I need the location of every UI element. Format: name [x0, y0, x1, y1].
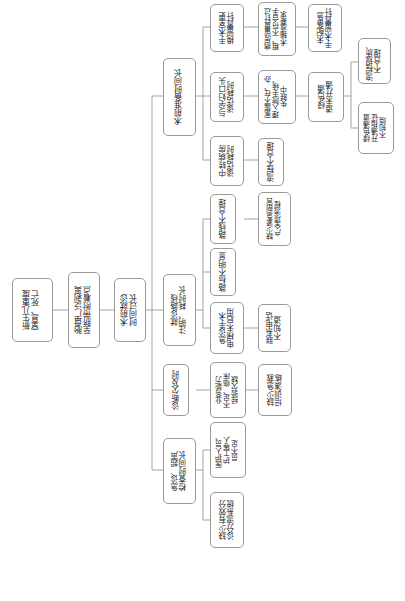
node-root-outcome[interactable]: 新生儿重度 窒息、死亡	[12, 278, 53, 342]
node-placenta-abruption[interactable]: 胎盘广泛剥离 至脐带附着点	[68, 272, 100, 348]
node-label: 路标不明显	[219, 252, 228, 292]
node-label: 业务能力 不足、临床 经验欠缺	[216, 373, 239, 408]
node-label: 绿色通 道未开通	[318, 81, 335, 113]
node-label: 缺少有效分 诊分流系统	[219, 500, 236, 540]
node-process-unreasonable-2[interactable]: 流程不合理	[258, 138, 284, 186]
node-green-channel-not-open[interactable]: 绿色通 道未开通	[308, 72, 344, 122]
node-diagnosis-untimely[interactable]: 诊断欠及时	[163, 364, 189, 416]
node-preop-visit-delay[interactable]: 术前就诊 时间过长	[114, 278, 146, 342]
node-label: 新生儿重度 窒息、死亡	[23, 290, 41, 330]
node-label: 术前准备时间长	[175, 69, 184, 125]
node-label: 联系电话 不知道	[266, 312, 283, 344]
node-route-unreasonable[interactable]: 路线不合理	[210, 194, 236, 244]
connector-lines	[0, 0, 405, 601]
node-no-emergency-csection-process[interactable]: 缺少紧急剖宫 产全项流程	[258, 192, 291, 246]
node-label: 胎盘广泛剥离 至脐带附着点	[75, 286, 93, 334]
node-label: 手术室更 换留置针	[219, 12, 236, 44]
node-label: 术前就诊 时间过长	[121, 294, 139, 326]
node-label: 路线不合理	[219, 199, 228, 239]
node-process-unreasonable-1[interactable]: 流程规质、 不合理	[358, 38, 391, 84]
node-label: 未配备急 手术留置针	[317, 8, 334, 48]
node-ed-ultrasound-time[interactable]: 急诊、超声 检查时间长	[163, 438, 196, 504]
node-label: 家属不在、办 理入院手续、 失联中	[265, 76, 288, 118]
node-label: 急诊手术 电梯未启用	[219, 308, 236, 348]
node-label: 中转病房 谈话耗时	[219, 145, 236, 177]
node-lack-emergency-training[interactable]: 缺少急救 培训演练	[258, 364, 292, 416]
node-label: 急诊、超声 检查时间长	[171, 451, 188, 491]
node-label: 流程规质、 不合理	[366, 41, 383, 81]
node-label: 绿色通道 开通指征 不知晓	[364, 114, 387, 142]
node-label: 医护人员、 护工等人 员不足	[216, 433, 239, 468]
node-label: 诊断欠及时	[172, 370, 181, 410]
node-preop-prep-time[interactable]: 术前准备时间长	[163, 58, 196, 136]
node-signage-unclear[interactable]: 路标不明显	[210, 248, 236, 296]
diagram-canvas: 新生儿重度 窒息、死亡 胎盘广泛剥离 至脐带附着点 术前就诊 时间过长 术前准备…	[0, 0, 405, 601]
node-label: 缺少紧急剖宫 产全项流程	[267, 198, 283, 240]
node-emergency-elevator-unused[interactable]: 急诊手术 电梯未启用	[210, 302, 244, 354]
node-insufficient-competence[interactable]: 业务能力 不足、临床 经验欠缺	[210, 362, 246, 418]
node-family-absent-admission[interactable]: 家属不在、办 理入院手续、 失联中	[258, 70, 296, 124]
node-verbal-consent-time[interactable]: 与孕妇口头 谈话耗时	[210, 72, 244, 122]
node-visit-route-time[interactable]: 就诊路线 注明、耗时长	[163, 274, 196, 346]
node-staff-shortage[interactable]: 医护人员、 护工等人 员不足	[210, 422, 246, 478]
node-or-change-catheter[interactable]: 手术室更 换留置针	[210, 4, 244, 52]
node-ward-catheter-too-thick[interactable]: 病房留置针过 粗、不符合手 术输液要求	[258, 2, 296, 56]
node-green-channel-criteria-unknown[interactable]: 绿色通道 开通指征 不知晓	[358, 102, 394, 154]
node-ward-transfer-consent-time[interactable]: 中转病房 谈话耗时	[210, 136, 244, 186]
node-label: 与孕妇口头 谈话耗时	[219, 77, 236, 117]
node-label: 就诊路线 注明、耗时长	[171, 286, 188, 334]
node-no-triage-system[interactable]: 缺少有效分 诊分流系统	[210, 492, 244, 548]
node-label: 缺少急救 培训演练	[267, 374, 284, 406]
node-label: 病房留置针过 粗、不符合手 术输液要求	[265, 8, 288, 50]
node-no-emergency-catheter[interactable]: 未配备急 手术留置针	[308, 4, 342, 52]
node-label: 流程不合理	[267, 142, 276, 182]
node-contact-phone-unknown[interactable]: 联系电话 不知道	[258, 304, 291, 352]
